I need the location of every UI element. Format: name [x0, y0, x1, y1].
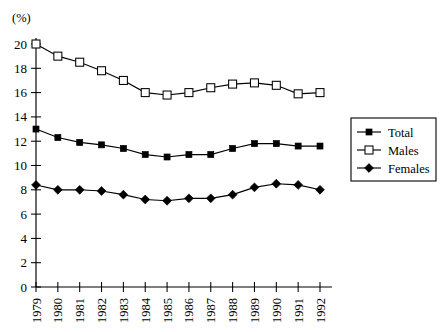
data-point-total: [230, 145, 236, 151]
y-axis-unit-label: (%): [12, 11, 31, 25]
data-point-total: [186, 152, 192, 158]
series-males: [32, 40, 324, 99]
data-point-males: [294, 90, 302, 98]
data-point-total: [273, 141, 279, 147]
x-tick-label: 1984: [139, 297, 153, 323]
data-point-females: [163, 196, 172, 205]
data-point-females: [32, 181, 41, 190]
data-point-females: [250, 183, 259, 192]
y-tick-label: 10: [14, 158, 27, 173]
data-point-females: [119, 190, 128, 199]
data-point-females: [185, 194, 194, 203]
x-tick-label: 1990: [270, 298, 284, 323]
data-point-males: [98, 67, 106, 75]
x-tick-label: 1985: [161, 298, 175, 323]
legend-label: Total: [388, 126, 414, 140]
data-point-total: [55, 135, 61, 141]
y-axis-unit-label-group: (%): [12, 11, 31, 25]
data-point-total: [251, 141, 257, 147]
x-tick-label: 1980: [51, 298, 65, 323]
legend-marker-males: [365, 146, 373, 154]
data-point-males: [207, 84, 215, 92]
y-tick-label: 14: [14, 109, 28, 124]
data-point-total: [142, 152, 148, 158]
data-point-females: [316, 185, 325, 194]
x-tick-label: 1981: [73, 298, 87, 323]
x-tick-label: 1987: [204, 298, 218, 323]
y-tick-label: 8: [21, 182, 28, 197]
x-tick-label: 1989: [248, 298, 262, 323]
y-tick-label: 4: [21, 231, 28, 246]
data-point-males: [185, 89, 193, 97]
data-point-total: [77, 139, 83, 145]
data-point-females: [206, 194, 215, 203]
data-point-females: [294, 181, 303, 190]
series-total: [33, 126, 323, 160]
x-tick-label: 1983: [117, 298, 131, 323]
series-females: [32, 179, 325, 205]
data-point-females: [228, 190, 237, 199]
y-tick-label: 2: [21, 255, 28, 270]
data-point-females: [53, 185, 62, 194]
data-point-total: [33, 126, 39, 132]
data-point-females: [97, 187, 106, 196]
y-tick-label: 18: [14, 61, 27, 76]
data-point-males: [316, 89, 324, 97]
data-point-males: [76, 58, 84, 66]
x-tick-label: 1992: [314, 298, 328, 323]
data-point-total: [99, 142, 105, 148]
data-point-total: [120, 145, 126, 151]
x-axis-tick-labels: 1979198019811982198319841985198619871988…: [30, 297, 328, 323]
data-point-males: [250, 79, 258, 87]
data-point-males: [119, 76, 127, 84]
x-tick-label: 1979: [30, 298, 44, 323]
data-point-females: [272, 179, 281, 188]
x-tick-label: 1986: [182, 298, 196, 323]
y-tick-label: 0: [21, 280, 28, 295]
legend-marker-total: [366, 129, 372, 135]
data-point-males: [272, 81, 280, 89]
x-tick-label: 1991: [292, 298, 306, 323]
y-tick-label: 20: [14, 37, 27, 52]
chart-legend: TotalMalesFemales: [351, 118, 436, 181]
data-point-total: [317, 143, 323, 149]
data-point-males: [54, 52, 62, 60]
data-point-males: [32, 40, 40, 48]
y-tick-label: 6: [21, 207, 28, 222]
legend-label: Males: [388, 144, 419, 158]
data-point-females: [141, 195, 150, 204]
y-tick-label: 12: [14, 134, 27, 149]
data-point-total: [295, 143, 301, 149]
y-tick-label: 16: [14, 85, 28, 100]
x-tick-label: 1982: [95, 298, 109, 323]
data-series-layer: [32, 40, 325, 205]
data-point-males: [229, 80, 237, 88]
data-point-total: [164, 154, 170, 160]
chart-page: (%) 02468101214161820 197919801981198219…: [0, 0, 441, 332]
legend-label: Females: [388, 162, 430, 176]
data-point-females: [75, 185, 84, 194]
data-point-males: [163, 91, 171, 99]
data-point-males: [141, 89, 149, 97]
y-axis-tick-labels: 02468101214161820: [14, 37, 28, 295]
data-point-total: [208, 152, 214, 158]
line-chart: (%) 02468101214161820 197919801981198219…: [0, 0, 441, 332]
x-tick-label: 1988: [226, 298, 240, 323]
